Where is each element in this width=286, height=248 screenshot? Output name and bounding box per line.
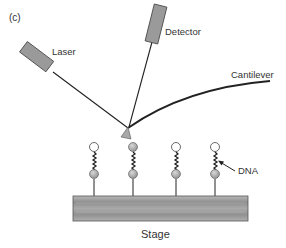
dna-molecule-4 xyxy=(211,143,220,197)
bead-bottom xyxy=(90,170,99,179)
detector-icon xyxy=(145,4,167,44)
bead-bottom xyxy=(211,170,220,179)
bead-top xyxy=(172,143,181,152)
cantilever-label: Cantilever xyxy=(231,69,274,80)
laser-icon xyxy=(20,42,54,72)
stage-label: Stage xyxy=(141,228,170,240)
cantilever xyxy=(128,81,270,128)
bead-top xyxy=(129,143,138,152)
bead-bottom xyxy=(129,170,138,179)
dna-molecule-3 xyxy=(172,143,181,197)
bead-bottom xyxy=(172,170,181,179)
laser-label: Laser xyxy=(52,46,76,57)
bead-top xyxy=(90,143,99,152)
panel-label: (c) xyxy=(9,12,21,23)
stage xyxy=(73,196,248,221)
laser-beam xyxy=(53,72,128,128)
dna-molecule-2 xyxy=(129,143,138,197)
bead-top xyxy=(211,143,220,152)
dna-label: DNA xyxy=(238,165,259,176)
dna-pointer-arrow xyxy=(218,161,235,172)
cantilever-tip xyxy=(121,127,131,139)
afm-diagram: (c) Laser Detector Cantilever xyxy=(0,0,286,248)
detector-label: Detector xyxy=(165,26,201,37)
dna-molecule-1 xyxy=(90,143,99,197)
